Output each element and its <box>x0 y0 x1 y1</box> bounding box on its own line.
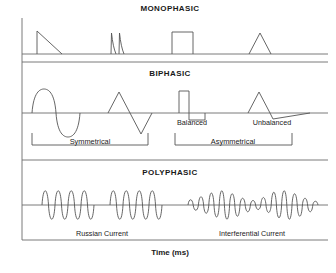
label-interferential-current: Interferential Current <box>219 229 285 238</box>
panel-title-biphasic: BIPHASIC <box>149 69 190 78</box>
waveform-twin-spike-pulse-a <box>111 33 116 54</box>
label-balanced: Balanced <box>177 118 207 127</box>
waveform-twin-spike-pulse-b <box>119 33 124 54</box>
axis-label-time: Time (ms) <box>151 248 189 257</box>
waveform-diagram: MONOPHASIC BIPHASIC Balanced Unbalanced … <box>0 0 336 273</box>
waveform-square-pulse <box>172 32 193 54</box>
waveform-unbalanced-triangular-biphasic <box>248 92 310 119</box>
label-asymmetrical: Asymmetrical <box>211 137 256 146</box>
label-russian-current: Russian Current <box>76 229 128 238</box>
label-unbalanced: Unbalanced <box>253 118 291 127</box>
waveform-balanced-square-biphasic <box>179 91 205 120</box>
panel-title-polyphasic: POLYPHASIC <box>142 168 197 177</box>
panel-title-monophasic: MONOPHASIC <box>140 4 199 13</box>
waveform-sawtooth-decay-pulse <box>37 31 62 54</box>
waveform-triangular-pulse <box>249 33 271 54</box>
label-symmetrical: Symmetrical <box>70 137 111 146</box>
